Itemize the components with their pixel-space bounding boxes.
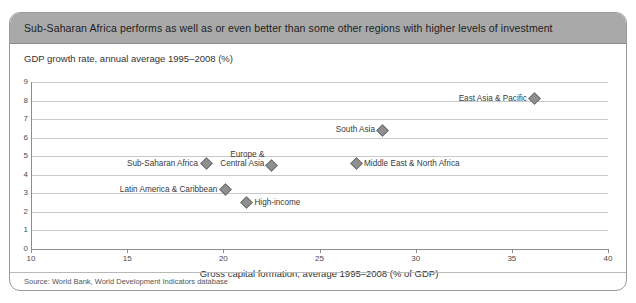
source-divider <box>10 272 626 273</box>
data-point-marker <box>529 92 542 105</box>
x-tick-mark <box>31 249 32 253</box>
y-tick-label: 2 <box>12 207 28 216</box>
x-tick-label: 25 <box>305 254 335 263</box>
x-tick-label: 40 <box>593 254 623 263</box>
data-point-label: East Asia & Pacific <box>459 94 527 103</box>
chart-card: Sub-Saharan Africa performs as well as o… <box>9 12 627 291</box>
data-point-label: Sub-Saharan Africa <box>127 159 198 168</box>
data-point-label: Latin America & Caribbean <box>120 185 217 194</box>
gridline <box>31 156 608 157</box>
x-tick-mark <box>512 249 513 253</box>
data-point-marker <box>377 124 390 137</box>
y-tick-label: 9 <box>12 77 28 86</box>
y-tick-label: 5 <box>12 151 28 160</box>
data-point-label: South Asia <box>336 126 375 135</box>
x-tick-mark <box>127 249 128 253</box>
scatter-plot: 0123456789 10152025303540 East Asia & Pa… <box>10 13 627 291</box>
gridline <box>31 230 608 231</box>
x-tick-mark <box>320 249 321 253</box>
gridline <box>31 82 608 83</box>
x-tick-label: 30 <box>401 254 431 263</box>
y-tick-label: 8 <box>12 96 28 105</box>
y-tick-label: 6 <box>12 133 28 142</box>
figure-root: Sub-Saharan Africa performs as well as o… <box>0 0 636 303</box>
data-point-label: Middle East & North Africa <box>364 159 460 168</box>
y-axis-line <box>31 82 32 250</box>
data-point-marker <box>240 196 253 209</box>
data-point-label: High-income <box>254 198 300 207</box>
gridline <box>31 138 608 139</box>
data-point-marker <box>200 157 213 170</box>
y-tick-label: 7 <box>12 114 28 123</box>
x-tick-label: 20 <box>208 254 238 263</box>
gridline <box>31 193 608 194</box>
y-tick-label: 0 <box>12 244 28 253</box>
data-point-label: Europe &Central Asia <box>220 149 264 167</box>
gridline <box>31 212 608 213</box>
data-point-marker <box>350 157 363 170</box>
y-tick-label: 1 <box>12 225 28 234</box>
data-point-marker <box>265 159 278 172</box>
y-tick-label: 3 <box>12 188 28 197</box>
x-tick-mark <box>608 249 609 253</box>
gridline <box>31 175 608 176</box>
y-tick-label: 4 <box>12 170 28 179</box>
source-note: Source: World Bank, World Development In… <box>24 277 228 286</box>
x-tick-label: 10 <box>16 254 46 263</box>
x-tick-label: 15 <box>112 254 142 263</box>
x-tick-mark <box>416 249 417 253</box>
gridline <box>31 119 608 120</box>
x-tick-mark <box>223 249 224 253</box>
x-tick-label: 35 <box>497 254 527 263</box>
